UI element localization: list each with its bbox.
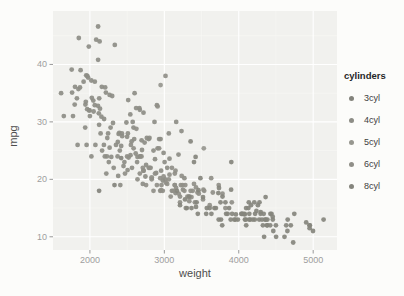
- data-point-4cyl: [105, 136, 110, 141]
- data-point-4cyl: [96, 24, 101, 29]
- data-point-4cyl: [92, 79, 97, 84]
- data-point-8cyl: [288, 223, 293, 228]
- data-point-4cyl: [76, 36, 81, 41]
- data-point-4cyl: [166, 131, 171, 136]
- legend-item-8cyl: 8cyl: [344, 175, 402, 197]
- data-point-6cyl: [209, 176, 214, 181]
- data-point-6cyl: [139, 154, 144, 159]
- legend-key-dot-3cyl: [344, 91, 358, 105]
- data-point-8cyl: [285, 217, 290, 222]
- data-point-8cyl: [192, 160, 197, 165]
- y-tick-label: 40: [37, 59, 47, 69]
- data-point-4cyl: [98, 131, 103, 136]
- data-point-8cyl: [220, 223, 225, 228]
- legend-dot-icon: [349, 162, 354, 167]
- data-point-8cyl: [178, 203, 183, 208]
- scatter-plot-figure: 200030004000500010203040 mpg weight cyli…: [0, 0, 404, 296]
- x-tick-label: 5000: [303, 255, 323, 265]
- y-axis-title: mpg: [7, 121, 19, 151]
- data-point-4cyl: [162, 160, 167, 165]
- data-point-4cyl: [132, 91, 137, 96]
- data-point-4cyl: [87, 108, 92, 113]
- data-point-8cyl: [227, 206, 232, 211]
- data-point-6cyl: [160, 188, 165, 193]
- data-point-4cyl: [179, 129, 184, 134]
- data-point-4cyl: [75, 96, 80, 101]
- data-point-8cyl: [229, 160, 234, 165]
- data-point-8cyl: [257, 200, 262, 205]
- data-point-8cyl: [223, 200, 228, 205]
- data-point-5cyl: [201, 146, 206, 151]
- data-point-8cyl: [307, 223, 312, 228]
- data-point-4cyl: [61, 114, 66, 119]
- data-point-4cyl: [152, 120, 157, 125]
- data-point-4cyl: [142, 140, 147, 145]
- data-point-4cyl: [120, 134, 125, 139]
- legend-label-5cyl: 5cyl: [364, 137, 380, 147]
- legend-item-5cyl: 5cyl: [344, 131, 402, 153]
- data-point-6cyl: [135, 177, 140, 182]
- legend-item-3cyl: 3cyl: [344, 87, 402, 109]
- data-point-8cyl: [187, 194, 192, 199]
- data-point-4cyl: [103, 85, 108, 90]
- x-axis-title: weight: [53, 267, 337, 279]
- data-point-8cyl: [262, 234, 267, 239]
- data-point-8cyl: [194, 205, 199, 210]
- legend-label-8cyl: 8cyl: [364, 181, 380, 191]
- legend-dot-icon: [349, 140, 354, 145]
- data-point-8cyl: [252, 217, 257, 222]
- data-point-4cyl: [97, 122, 102, 127]
- data-point-4cyl: [128, 112, 133, 117]
- data-point-8cyl: [270, 217, 275, 222]
- y-tick-label: 10: [37, 232, 47, 242]
- data-point-6cyl: [173, 168, 178, 173]
- data-point-6cyl: [157, 146, 162, 151]
- data-point-8cyl: [254, 209, 259, 214]
- data-point-6cyl: [125, 154, 130, 159]
- data-point-8cyl: [271, 229, 276, 234]
- data-point-4cyl: [126, 131, 131, 136]
- data-point-6cyl: [151, 188, 156, 193]
- data-point-4cyl: [93, 143, 98, 148]
- data-point-8cyl: [247, 211, 252, 216]
- data-point-8cyl: [189, 206, 194, 211]
- data-point-8cyl: [175, 188, 180, 193]
- data-point-4cyl: [159, 168, 164, 173]
- data-point-4cyl: [72, 102, 77, 107]
- data-point-8cyl: [234, 212, 239, 217]
- legend-label-6cyl: 6cyl: [364, 159, 380, 169]
- data-point-4cyl: [106, 160, 111, 165]
- data-point-8cyl: [218, 200, 223, 205]
- data-point-4cyl: [104, 171, 109, 176]
- data-point-8cyl: [214, 206, 219, 211]
- y-tick-label: 20: [37, 174, 47, 184]
- data-point-8cyl: [274, 223, 279, 228]
- data-point-4cyl: [83, 125, 88, 130]
- data-point-4cyl: [69, 67, 74, 72]
- data-point-4cyl: [130, 120, 135, 125]
- data-point-8cyl: [188, 139, 193, 144]
- data-point-4cyl: [97, 96, 102, 101]
- data-point-4cyl: [112, 43, 117, 48]
- data-point-4cyl: [167, 156, 172, 161]
- data-point-4cyl: [88, 114, 93, 119]
- data-point-4cyl: [158, 137, 163, 142]
- data-point-8cyl: [194, 200, 199, 205]
- data-point-6cyl: [159, 183, 164, 188]
- x-tick-label: 4000: [229, 255, 249, 265]
- data-point-4cyl: [110, 94, 115, 99]
- legend: cylinders 3cyl4cyl5cyl6cyl8cyl: [344, 70, 402, 197]
- data-point-4cyl: [71, 114, 76, 119]
- data-point-4cyl: [116, 174, 121, 179]
- data-point-5cyl: [158, 83, 163, 88]
- data-point-6cyl: [179, 174, 184, 179]
- data-point-4cyl: [78, 85, 83, 90]
- legend-dot-icon: [349, 96, 354, 101]
- data-point-6cyl: [149, 177, 154, 182]
- data-point-8cyl: [216, 191, 221, 196]
- data-point-4cyl: [115, 154, 120, 159]
- data-point-6cyl: [144, 183, 149, 188]
- data-point-4cyl: [107, 145, 112, 150]
- data-point-6cyl: [168, 194, 173, 199]
- data-point-4cyl: [84, 143, 89, 148]
